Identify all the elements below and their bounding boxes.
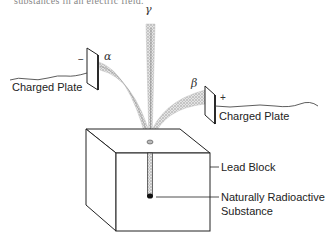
- right-plate-label: Charged Plate: [219, 110, 289, 122]
- right-wire: [215, 102, 318, 107]
- gamma-beam: [146, 24, 155, 140]
- substance-label-line2: Substance: [221, 205, 273, 217]
- source-tube: [147, 153, 153, 199]
- lead-block-label: Lead Block: [221, 161, 275, 173]
- left-wire: [10, 73, 87, 80]
- alpha-beam: [99, 62, 151, 138]
- gamma-label: γ: [145, 4, 152, 16]
- left-plate-label: Charged Plate: [12, 81, 82, 93]
- negative-sign: −: [78, 55, 84, 65]
- alpha-label: α: [104, 51, 111, 63]
- positive-sign: +: [220, 93, 226, 103]
- substance-label-line1: Naturally Radioactive: [221, 191, 325, 203]
- beta-label: β: [191, 78, 197, 90]
- radioactive-sample: [147, 193, 153, 198]
- block-opening: [147, 140, 153, 144]
